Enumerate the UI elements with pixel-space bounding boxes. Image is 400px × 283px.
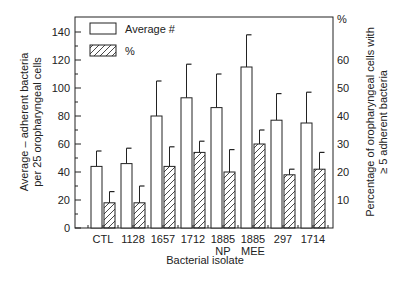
x-tick-label: 297	[274, 233, 292, 245]
bar-group	[151, 81, 175, 228]
left-tick-label: 100	[52, 82, 70, 94]
x-tick-label: 1128	[121, 233, 145, 245]
left-axis-title: Average – adherent bacteriaper 25 oropha…	[18, 52, 43, 191]
bar-average	[151, 116, 162, 228]
right-axis-title-line: Percentage of oropharyngeal cells with	[364, 27, 376, 217]
legend-swatch-hatched	[90, 45, 116, 56]
legend: Average #%	[90, 23, 176, 57]
x-axis-title: Bacterial isolate	[166, 254, 244, 266]
legend-label-average: Average #	[125, 23, 176, 35]
x-tick-label: 1714	[301, 233, 325, 245]
bar-average	[301, 123, 312, 228]
bar-group	[271, 94, 295, 228]
left-tick-label: 140	[52, 26, 70, 38]
left-tick-label: 20	[58, 194, 70, 206]
bar-group	[91, 151, 115, 228]
left-tick-label: 60	[58, 138, 70, 150]
bar-percentage	[104, 203, 115, 228]
left-axis-title-line: Average – adherent bacteria	[18, 52, 30, 191]
bar-percentage	[254, 144, 265, 228]
legend-swatch-open	[90, 23, 116, 34]
x-tick-label: MEE	[241, 245, 265, 257]
bar-percentage	[224, 172, 235, 228]
left-tick-label: 40	[58, 166, 70, 178]
right-axis-title-line: ≥ 5 adherent bacteria	[377, 69, 389, 174]
bar-percentage	[194, 152, 205, 228]
bar-percentage	[134, 203, 145, 228]
bar-average	[211, 108, 222, 228]
x-tick-label: 1657	[151, 233, 175, 245]
legend-label-percent: %	[125, 45, 135, 57]
left-tick-label: 120	[52, 54, 70, 66]
left-axis-title-line: per 25 oropharyngeal cells	[31, 57, 43, 187]
left-tick-label: 80	[58, 110, 70, 122]
bar-group	[181, 64, 205, 228]
left-tick-label: 0	[64, 222, 70, 234]
right-tick-label: 40	[337, 110, 349, 122]
bar-average	[121, 164, 132, 228]
bar-average	[181, 98, 192, 228]
right-tick-label: 60	[337, 54, 349, 66]
bar-group	[301, 92, 325, 228]
bar-average	[241, 67, 252, 228]
bar-group	[241, 35, 265, 228]
bar-percentage	[284, 175, 295, 228]
right-tick-label: 30	[337, 138, 349, 150]
right-tick-label: 50	[337, 82, 349, 94]
bar-average	[91, 166, 102, 228]
bar-percentage	[164, 166, 175, 228]
bars	[91, 35, 325, 228]
right-tick-label: 20	[337, 166, 349, 178]
right-tick-label: 10	[337, 194, 349, 206]
bar-average	[271, 120, 282, 228]
x-tick-label: CTL	[93, 233, 114, 245]
bar-group	[121, 148, 145, 228]
x-tick-label: 1712	[181, 233, 205, 245]
bar-percentage	[314, 169, 325, 228]
x-tick-label: 1885	[241, 233, 265, 245]
bar-group	[211, 74, 235, 228]
right-y-axis: 102030405060%	[337, 13, 349, 206]
bar-chart: 020406080100120140 102030405060% CTL1128…	[0, 0, 400, 283]
right-axis-unit: %	[337, 13, 347, 25]
right-axis-title: Percentage of oropharyngeal cells with≥ …	[364, 27, 389, 217]
x-tick-label: 1885	[211, 233, 235, 245]
